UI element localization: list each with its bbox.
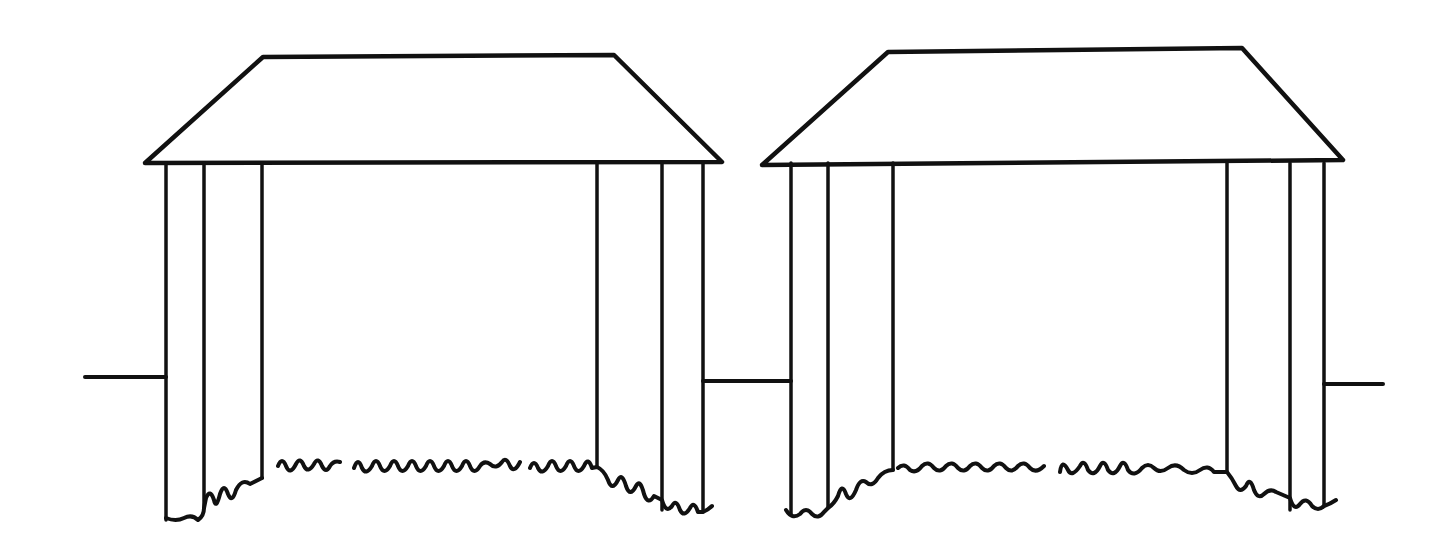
left-stage: [145, 55, 722, 520]
right-stage: [762, 48, 1343, 517]
stage-structures: [145, 48, 1343, 520]
connector-lines: [85, 377, 1383, 384]
roof-trapezoid: [145, 55, 722, 163]
diagram-canvas: [0, 0, 1444, 556]
roof-trapezoid: [762, 48, 1343, 165]
curtain-hem: [786, 463, 1336, 517]
curtain-hem: [166, 460, 712, 520]
stage-diagram: [0, 0, 1444, 556]
